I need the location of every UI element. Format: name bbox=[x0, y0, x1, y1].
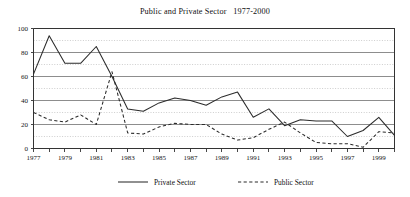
y-tick-label: 60 bbox=[21, 73, 29, 81]
y-tick-label: 0 bbox=[25, 145, 29, 153]
x-tick-label: 1989 bbox=[215, 154, 230, 162]
chart-container: Public and Private Sector 1977-2000 0204… bbox=[0, 0, 410, 197]
y-tick-label: 80 bbox=[21, 49, 29, 57]
x-tick-label: 1997 bbox=[340, 154, 355, 162]
y-tick-label: 100 bbox=[18, 25, 29, 33]
x-tick-label: 1999 bbox=[372, 154, 387, 162]
x-axis-ticks: 1977197919811983198519871989199119931995… bbox=[27, 149, 395, 163]
x-tick-label: 1985 bbox=[152, 154, 167, 162]
x-tick-label: 1983 bbox=[121, 154, 136, 162]
x-tick-label: 1977 bbox=[27, 154, 42, 162]
x-tick-label: 1987 bbox=[183, 154, 198, 162]
y-tick-label: 40 bbox=[21, 97, 29, 105]
chart-plot-area: 020406080100 197719791981198319851987198… bbox=[0, 0, 410, 197]
series-line-private-sector bbox=[34, 36, 395, 137]
legend-label-private-sector: Private Sector bbox=[154, 178, 196, 187]
x-tick-label: 1993 bbox=[278, 154, 293, 162]
x-tick-label: 1991 bbox=[246, 154, 261, 162]
x-tick-label: 1995 bbox=[309, 154, 324, 162]
x-tick-label: 1979 bbox=[58, 154, 73, 162]
chart-legend: Private SectorPublic Sector bbox=[118, 178, 314, 187]
x-tick-label: 1981 bbox=[89, 154, 104, 162]
minor-gridlines bbox=[34, 41, 395, 137]
series-line-public-sector bbox=[34, 72, 395, 148]
y-tick-label: 20 bbox=[21, 121, 29, 129]
legend-label-public-sector: Public Sector bbox=[274, 178, 314, 187]
y-axis-ticks: 020406080100 bbox=[18, 25, 34, 153]
